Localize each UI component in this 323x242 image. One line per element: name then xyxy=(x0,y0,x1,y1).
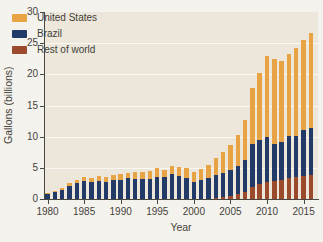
bar-1999-united-states xyxy=(184,168,188,177)
bar-2007-united-states xyxy=(243,120,247,161)
bar-2006-united-states xyxy=(236,135,240,166)
y-tick-25 xyxy=(40,43,44,44)
bar-2010-rest-of-world xyxy=(265,182,269,199)
bar-2014-rest-of-world xyxy=(294,177,298,199)
bar-1980-united-states xyxy=(45,193,49,194)
bar-2014-united-states xyxy=(294,48,298,137)
x-tick-label-1990: 1990 xyxy=(103,206,139,218)
bar-2006-brazil xyxy=(236,166,240,194)
bar-2004-united-states xyxy=(221,152,225,173)
y-tick-label-30: 30 xyxy=(14,6,38,18)
bar-2008-united-states xyxy=(250,88,254,144)
bar-1995-brazil xyxy=(155,177,159,199)
bar-1992-brazil xyxy=(133,179,137,199)
bar-2016-rest-of-world xyxy=(309,175,313,199)
bar-1988-brazil xyxy=(104,182,108,199)
x-tick-2000 xyxy=(194,200,195,204)
bar-1992-united-states xyxy=(133,172,137,179)
bar-2008-brazil xyxy=(250,144,254,186)
bar-2009-united-states xyxy=(257,73,261,140)
bar-1994-brazil xyxy=(148,179,152,199)
bar-1982-brazil xyxy=(60,190,64,199)
bar-1993-brazil xyxy=(140,179,144,199)
bar-1989-united-states xyxy=(111,175,115,180)
x-tick-1990 xyxy=(121,200,122,204)
bar-2010-brazil xyxy=(265,137,269,182)
bar-2004-rest-of-world xyxy=(221,197,225,199)
bar-2004-brazil xyxy=(221,173,225,197)
bar-1998-brazil xyxy=(177,176,181,199)
bar-1985-united-states xyxy=(82,177,86,181)
bar-1986-united-states xyxy=(89,178,93,182)
bar-2014-brazil xyxy=(294,136,298,177)
bar-2005-united-states xyxy=(228,145,232,169)
bar-2011-brazil xyxy=(272,144,276,181)
bar-2012-rest-of-world xyxy=(279,180,283,199)
bar-1995-united-states xyxy=(155,168,159,177)
x-tick-2015 xyxy=(304,200,305,204)
bar-2006-rest-of-world xyxy=(236,194,240,199)
x-tick-label-2015: 2015 xyxy=(286,206,322,218)
bar-1984-brazil xyxy=(75,183,79,199)
x-tick-2010 xyxy=(267,200,268,204)
bar-1989-brazil xyxy=(111,180,115,199)
bar-2015-brazil xyxy=(301,130,305,176)
bar-1999-brazil xyxy=(184,178,188,199)
y-tick-label-25: 25 xyxy=(14,37,38,49)
bar-1987-united-states xyxy=(97,176,101,181)
x-tick-label-2005: 2005 xyxy=(212,206,248,218)
bar-1990-united-states xyxy=(118,174,122,180)
y-tick-20 xyxy=(40,74,44,75)
ethanol-production-chart: Gallons (billions) Year United States Br… xyxy=(0,0,323,242)
x-tick-label-2010: 2010 xyxy=(249,206,285,218)
bar-2016-united-states xyxy=(309,33,313,128)
bar-2007-brazil xyxy=(243,160,247,191)
bar-1985-brazil xyxy=(82,181,86,199)
bar-2001-brazil xyxy=(199,180,203,199)
bar-1997-brazil xyxy=(170,174,174,199)
y-tick-label-15: 15 xyxy=(14,100,38,112)
bar-1983-brazil xyxy=(67,186,71,199)
bar-1986-brazil xyxy=(89,182,93,199)
y-tick-label-5: 5 xyxy=(14,162,38,174)
bar-2012-brazil xyxy=(279,142,283,181)
bar-2002-united-states xyxy=(206,165,210,178)
bar-2007-rest-of-world xyxy=(243,192,247,199)
bar-1993-united-states xyxy=(140,172,144,179)
gridline-20 xyxy=(44,74,318,75)
bar-2012-united-states xyxy=(279,61,283,142)
bar-1991-united-states xyxy=(126,173,130,179)
y-tick-0 xyxy=(40,199,44,200)
bar-1998-united-states xyxy=(177,167,181,176)
bar-2015-united-states xyxy=(301,40,305,130)
bar-2000-brazil xyxy=(192,182,196,199)
bar-1981-united-states xyxy=(53,191,57,192)
bar-1994-united-states xyxy=(148,171,152,179)
bar-2013-united-states xyxy=(287,54,291,136)
bar-1990-brazil xyxy=(118,180,122,199)
x-tick-2005 xyxy=(230,200,231,204)
bar-2003-brazil xyxy=(214,175,218,198)
legend-label-rest-of-world: Rest of world xyxy=(37,45,95,54)
bar-2009-rest-of-world xyxy=(257,184,261,199)
bar-1987-brazil xyxy=(97,181,101,199)
x-axis-line xyxy=(44,199,319,200)
y-tick-label-0: 0 xyxy=(14,193,38,205)
bar-1983-united-states xyxy=(67,183,71,185)
bar-2005-brazil xyxy=(228,170,232,196)
bar-2002-brazil xyxy=(206,178,210,199)
bar-2011-rest-of-world xyxy=(272,181,276,199)
bar-1984-united-states xyxy=(75,180,79,183)
bar-2009-brazil xyxy=(257,140,261,184)
x-tick-label-2000: 2000 xyxy=(176,206,212,218)
bar-2003-united-states xyxy=(214,158,218,175)
x-tick-label-1985: 1985 xyxy=(66,206,102,218)
bar-2016-brazil xyxy=(309,128,313,175)
y-tick-30 xyxy=(40,12,44,13)
legend-label-united-states: United States xyxy=(37,13,97,22)
bar-2015-rest-of-world xyxy=(301,176,305,199)
y-tick-15 xyxy=(40,106,44,107)
bar-2010-united-states xyxy=(265,56,269,137)
bar-2001-united-states xyxy=(199,169,203,180)
y-tick-5 xyxy=(40,168,44,169)
